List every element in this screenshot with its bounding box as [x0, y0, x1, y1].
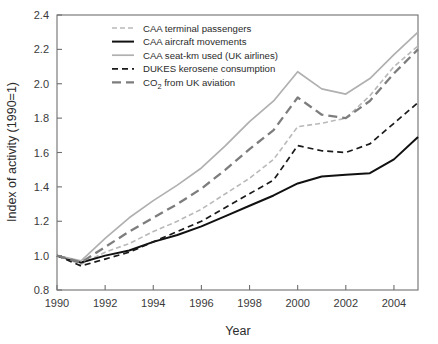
y-tick-label: 2.2	[34, 43, 49, 55]
legend-label-4: CO2 from UK aviation	[143, 77, 235, 91]
y-axis-title: Index of activity (1990=1)	[5, 82, 19, 222]
y-tick-label: 2.4	[34, 9, 49, 21]
line-chart: 0.81.01.21.41.61.82.02.22.4 199019921994…	[0, 0, 438, 344]
y-tick-label: 1.6	[34, 147, 49, 159]
x-tick-label: 1992	[93, 297, 117, 309]
series-line-0	[57, 46, 418, 264]
x-axis-ticks: 19901992199419961998200020022004	[45, 285, 406, 309]
legend-label-3: DUKES kerosene consumption	[143, 63, 275, 74]
y-tick-label: 1.0	[34, 250, 49, 262]
x-tick-label: 1998	[237, 297, 261, 309]
x-tick-label: 1994	[141, 297, 165, 309]
y-tick-label: 2.0	[34, 78, 49, 90]
y-tick-label: 1.4	[34, 181, 49, 193]
x-tick-label: 2000	[285, 297, 309, 309]
series-line-3	[57, 103, 418, 266]
chart-figure: 0.81.01.21.41.61.82.02.22.4 199019921994…	[0, 0, 438, 344]
x-tick-label: 1990	[45, 297, 69, 309]
chart-legend: CAA terminal passengersCAA aircraft move…	[112, 23, 278, 91]
y-tick-label: 1.8	[34, 112, 49, 124]
y-tick-label: 1.2	[34, 215, 49, 227]
x-tick-label: 1996	[189, 297, 213, 309]
series-line-4	[57, 49, 418, 262]
x-axis-title: Year	[225, 324, 250, 338]
legend-label-1: CAA aircraft movements	[143, 36, 247, 47]
x-tick-label: 2002	[334, 297, 358, 309]
y-tick-label: 0.8	[34, 284, 49, 296]
x-tick-label: 2004	[382, 297, 406, 309]
legend-label-0: CAA terminal passengers	[143, 23, 251, 34]
y-axis-ticks: 0.81.01.21.41.61.82.02.22.4	[34, 9, 62, 296]
legend-label-2: CAA seat-km used (UK airlines)	[143, 50, 278, 61]
